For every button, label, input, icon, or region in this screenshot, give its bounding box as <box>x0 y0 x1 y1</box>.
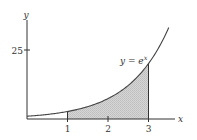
function-label-lhs: y = e <box>119 56 144 66</box>
x-axis-label: x <box>178 114 183 124</box>
shaded-area-region <box>68 64 149 119</box>
y-axis-label: y <box>23 10 30 20</box>
function-label: y = ex <box>119 54 148 66</box>
x-tick-label: 1 <box>65 124 71 134</box>
x-tick-label: 2 <box>105 124 111 134</box>
y-tick-label: 25 <box>12 46 24 56</box>
exp-area-diagram: 123 25 y x y = ex <box>0 0 197 140</box>
function-label-exponent: x <box>144 54 148 62</box>
x-tick-label: 3 <box>146 124 152 134</box>
